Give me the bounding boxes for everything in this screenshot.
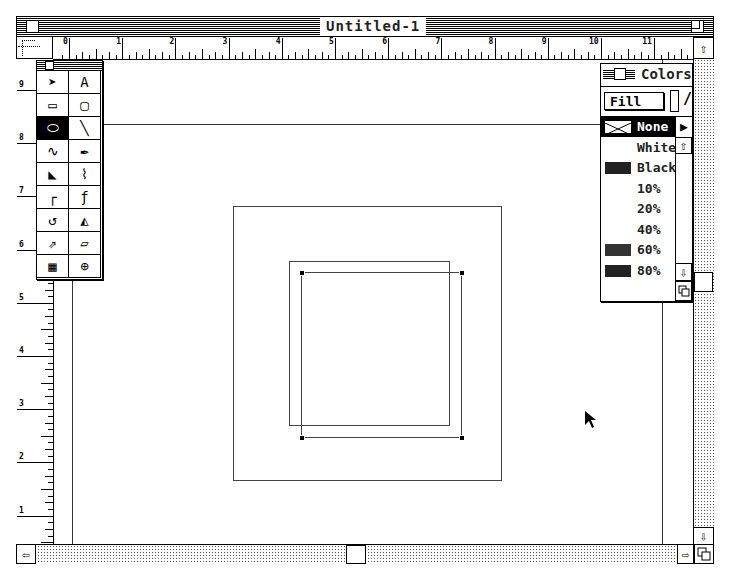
reflect-tool[interactable]: ◭ [69, 209, 101, 232]
vertical-scrollbar[interactable] [693, 59, 714, 544]
zoom-tool[interactable]: ⊕ [69, 255, 101, 278]
ruler-tick [195, 55, 196, 59]
ruler-tick [441, 38, 442, 59]
colors-menu-arrow-icon[interactable]: ▶ [676, 117, 692, 137]
zoom-box[interactable] [691, 20, 704, 33]
horizontal-scroll-thumb[interactable] [346, 545, 366, 564]
ruler-label: 3 [223, 37, 228, 46]
skew-tool[interactable]: ▱ [69, 232, 101, 255]
ruler-tick [48, 283, 53, 284]
connector-point-icon: ƒ [80, 189, 88, 205]
color-item[interactable]: 80% [601, 261, 675, 281]
colors-palette: Colors Fill / NoneWhiteBlack10%20%40%60%… [600, 63, 693, 302]
pointer-tool[interactable]: ➤ [37, 71, 69, 94]
fill-stroke-selector[interactable]: Fill [604, 92, 664, 110]
ruler-tick [17, 409, 53, 410]
stroke-pen-icon[interactable]: / [683, 90, 692, 108]
ruler-tick [335, 38, 336, 59]
pen-tool[interactable]: ✒ [69, 140, 101, 163]
ruler-tick [608, 55, 609, 59]
ruler-origin[interactable] [16, 37, 53, 59]
drawing-canvas[interactable] [54, 60, 693, 544]
ruler-tick [102, 55, 103, 59]
ruler-label: 8 [489, 37, 494, 46]
rounded-rectangle-tool[interactable]: ▢ [69, 94, 101, 117]
selection-handle[interactable] [459, 270, 465, 276]
color-item[interactable]: White [601, 138, 675, 158]
ruler-tick [48, 403, 53, 404]
ruler-tick [601, 38, 602, 59]
connector-point-tool[interactable]: ƒ [69, 186, 101, 209]
ruler-tick [654, 38, 655, 59]
selection-handle[interactable] [299, 270, 305, 276]
ruler-tick [41, 436, 53, 437]
close-box[interactable] [26, 20, 39, 33]
color-item[interactable]: 10% [601, 179, 675, 199]
knife-tool[interactable]: ◣ [37, 163, 69, 186]
fill-indicator-icon[interactable] [670, 90, 679, 112]
ruler-label: 7 [435, 37, 440, 46]
color-swatch [605, 162, 631, 174]
colors-scroll-down[interactable]: ⇩ [675, 263, 692, 281]
ruler-tick [149, 49, 150, 59]
ruler-tick [41, 489, 53, 490]
rectangle-icon: ▭ [48, 97, 56, 113]
ellipse-icon: ⬭ [47, 120, 59, 137]
ruler-tick [375, 52, 376, 59]
horizontal-ruler[interactable]: 01234567891011 [53, 37, 693, 60]
mouse-cursor-icon [584, 410, 598, 430]
ruler-tick [89, 55, 90, 59]
ruler-tick [661, 55, 662, 59]
scroll-up-button[interactable]: ⇧ [693, 37, 714, 59]
selection-handle[interactable] [459, 435, 465, 441]
selection-handle[interactable] [299, 435, 305, 441]
ruler-tick [362, 49, 363, 59]
ruler-tick [48, 416, 53, 417]
ruler-tick [328, 55, 329, 59]
scroll-down-button[interactable]: ⇩ [693, 527, 714, 545]
scroll-left-button[interactable]: ⇦ [16, 544, 36, 564]
freehand-tool[interactable]: ∿ [37, 140, 69, 163]
ruler-tick [209, 55, 210, 59]
ruler-tick [594, 55, 595, 59]
color-item[interactable]: None [601, 117, 675, 137]
ruler-tick [69, 38, 70, 59]
colors-grow-box[interactable] [675, 281, 692, 301]
curve-tool[interactable]: ⌇ [69, 163, 101, 186]
ruler-tick [222, 55, 223, 59]
color-item[interactable]: 60% [601, 240, 675, 260]
corner-point-tool[interactable]: ┌ [37, 186, 69, 209]
ruler-tick [495, 38, 496, 59]
selected-rectangle[interactable] [301, 272, 462, 438]
toolbox-title-bar[interactable] [37, 61, 102, 71]
trace-tool[interactable]: ▦ [37, 255, 69, 278]
color-item[interactable]: Black [601, 158, 675, 178]
page-margin-top [103, 124, 663, 125]
vertical-scroll-thumb[interactable] [694, 272, 713, 292]
ruler-tick [17, 462, 53, 463]
ruler-tick [169, 55, 170, 59]
ruler-tick [162, 52, 163, 59]
color-item[interactable]: 20% [601, 199, 675, 219]
rectangle-tool[interactable]: ▭ [37, 94, 69, 117]
color-item[interactable]: 40% [601, 220, 675, 240]
pointer-icon: ➤ [48, 74, 56, 90]
ellipse-tool[interactable]: ⬭ [37, 117, 69, 140]
colors-close-box[interactable] [614, 68, 626, 80]
scroll-right-button[interactable]: ⇨ [677, 544, 694, 564]
color-label: 80% [637, 261, 660, 281]
ruler-tick [468, 49, 469, 59]
colors-scroll-up[interactable]: ⇧ [675, 137, 692, 154]
rotate-tool[interactable]: ↺ [37, 209, 69, 232]
ruler-label: 10 [589, 37, 599, 46]
line-tool[interactable]: ╲ [69, 117, 101, 140]
ruler-tick [342, 55, 343, 59]
ruler-label: 7 [19, 186, 24, 195]
none-swatch-icon [605, 121, 631, 133]
scale-tool[interactable]: ⇗ [37, 232, 69, 255]
grow-box[interactable] [694, 544, 714, 564]
toolbox-close-box[interactable] [45, 61, 54, 70]
text-tool[interactable]: A [69, 71, 101, 94]
colors-title-bar[interactable]: Colors [601, 64, 692, 87]
ruler-tick [48, 389, 53, 390]
